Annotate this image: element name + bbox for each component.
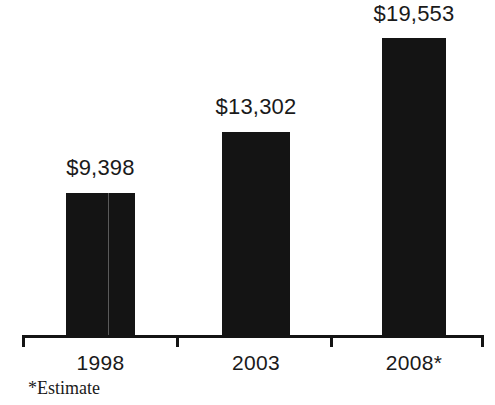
plot-area: $9,398 $13,302 $19,553 [0,0,495,340]
scan-artifact-line [108,193,109,335]
bar-1998 [66,193,135,335]
bar-chart: $9,398 $13,302 $19,553 1998 2003 2008* *… [0,0,495,405]
bar-2008 [382,38,446,335]
estimate-footnote: *Estimate [28,379,100,397]
x-axis-right-cap [481,335,484,347]
value-label-2008: $19,553 [354,3,474,25]
x-axis-label-2003: 2003 [196,352,316,373]
bar-2003 [222,132,290,335]
value-label-2003: $13,302 [196,96,316,118]
x-axis-label-1998: 1998 [41,352,160,373]
x-axis-left-cap [22,335,25,347]
value-label-1998: $9,398 [41,157,160,179]
x-axis-tick-2 [330,338,333,347]
x-axis-tick-1 [176,338,179,347]
x-axis-line [22,335,484,338]
x-axis-label-2008: 2008* [354,352,474,373]
